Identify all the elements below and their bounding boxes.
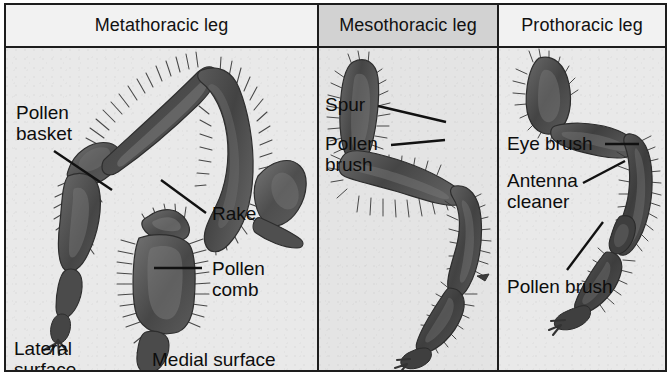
leader-pollen-brush-meso	[391, 140, 445, 145]
header-mesothoracic-label: Mesothoracic leg	[339, 15, 477, 36]
panel-body-row: Pollen basket Rake Pollen comb Lateral s…	[6, 48, 665, 370]
header-mesothoracic: Mesothoracic leg	[317, 5, 499, 48]
leader-pollen-basket	[54, 151, 112, 190]
metathoracic-leader-lines	[6, 48, 317, 370]
header-metathoracic: Metathoracic leg	[6, 5, 317, 48]
panel-mesothoracic: Spur Pollen brush	[317, 48, 499, 370]
bee-leg-figure: Metathoracic leg Mesothoracic leg Protho…	[4, 3, 667, 372]
leader-spur	[378, 106, 446, 122]
header-metathoracic-label: Metathoracic leg	[95, 15, 229, 36]
header-prothoracic-label: Prothoracic leg	[521, 15, 643, 36]
leader-antenna-cleaner	[583, 161, 625, 183]
leader-pollen-brush-pro	[567, 222, 603, 270]
mesothoracic-leader-lines	[319, 48, 497, 370]
panel-metathoracic: Pollen basket Rake Pollen comb Lateral s…	[6, 48, 317, 370]
panel-prothoracic: Eye brush Antenna cleaner Pollen brush	[499, 48, 665, 370]
panel-header-row: Metathoracic leg Mesothoracic leg Protho…	[6, 5, 665, 48]
prothoracic-leader-lines	[499, 48, 665, 370]
leader-rake	[161, 180, 206, 213]
header-prothoracic: Prothoracic leg	[499, 5, 665, 48]
